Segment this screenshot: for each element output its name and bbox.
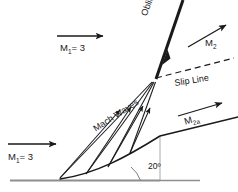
mach-wave (130, 108, 150, 153)
mach-wave (108, 82, 154, 167)
label-mach-downstream-upper-text: M (205, 37, 213, 48)
downstream-arrow-lower (178, 103, 222, 116)
oblique-shock-diagram: M1= 3 M1= 3 M2 M2a Oblique shock Slip Li… (0, 0, 238, 192)
label-mach-upstream-top-text: M (60, 42, 68, 53)
mach-wave (130, 82, 156, 153)
label-mach-downstream-lower-subscript: 2a (192, 118, 201, 127)
label-mach-upstream-bottom-value: = 3 (20, 151, 33, 162)
label-mach-upstream-bottom-text: M (8, 151, 16, 162)
mach-wave-group (60, 82, 156, 178)
label-mach-downstream-upper-subscript: 2 (213, 43, 217, 50)
diagram-canvas (0, 0, 238, 192)
angle-arc (131, 167, 141, 180)
oblique-shock-line (156, 0, 183, 79)
label-mach-upstream-bottom: M1= 3 (8, 152, 33, 164)
label-mach-downstream-upper: M2 (205, 38, 217, 50)
label-wedge-angle: 20º (148, 162, 161, 171)
label-mach-upstream-top-value: = 3 (72, 42, 85, 53)
label-mach-upstream-top: M1= 3 (60, 43, 85, 55)
